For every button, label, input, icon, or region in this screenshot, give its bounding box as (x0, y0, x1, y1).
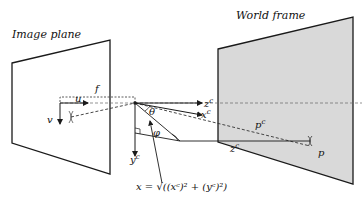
phi-label: φ (153, 127, 160, 138)
image-plane-title: Image plane (11, 28, 82, 41)
camera-projection-diagram: Image plane World frame f u v zc xc yc θ… (0, 0, 362, 204)
p-label: p (318, 147, 325, 158)
xc-label: xc (201, 108, 211, 120)
formula-label: x = √((xᶜ)² + (yᶜ)²) (136, 181, 227, 192)
image-plane (12, 40, 110, 174)
v-label: v (47, 114, 53, 125)
theta-label: θ (149, 106, 155, 117)
u-label: u (75, 93, 81, 104)
zc-world-label: zc (229, 142, 239, 154)
xc-axis (135, 103, 202, 115)
world-frame-plane (218, 17, 353, 184)
world-frame-title: World frame (236, 9, 306, 22)
yc-label: yc (129, 153, 140, 165)
